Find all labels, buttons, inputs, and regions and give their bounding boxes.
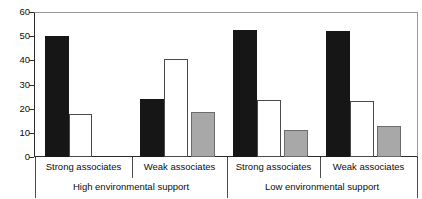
bar-white-weak-low bbox=[350, 101, 374, 157]
bar-group-weak-low bbox=[326, 12, 421, 157]
y-tick-label-10: 10 bbox=[8, 128, 30, 138]
y-tick-label-20: 20 bbox=[8, 104, 30, 114]
bar-gray-weak-low bbox=[377, 126, 401, 157]
y-tick-label-0: 0 bbox=[8, 152, 30, 162]
category-label-weak-high: Weak associates bbox=[132, 161, 227, 173]
bar-white-strong-high bbox=[69, 114, 92, 158]
panel-label-high-support: High environmental support bbox=[35, 181, 227, 193]
category-separator-right bbox=[417, 158, 418, 198]
category-label-strong-high: Strong associates bbox=[35, 161, 132, 173]
bar-white-strong-low bbox=[257, 100, 281, 157]
bar-group-strong-high bbox=[45, 12, 115, 157]
category-label-weak-low: Weak associates bbox=[320, 161, 417, 173]
bar-chart: 60 50 40 30 20 10 0 bbox=[0, 0, 422, 199]
plot-area bbox=[35, 12, 418, 157]
bar-black-weak-high bbox=[140, 99, 164, 157]
y-tick-label-50: 50 bbox=[8, 31, 30, 41]
y-tick-label-60: 60 bbox=[8, 7, 30, 17]
bar-gray-strong-low bbox=[284, 130, 308, 157]
y-tick-label-30: 30 bbox=[8, 80, 30, 90]
bar-group-weak-high bbox=[140, 12, 235, 157]
bar-black-weak-low bbox=[326, 31, 350, 157]
y-tick-label-40: 40 bbox=[8, 56, 30, 66]
y-tick-mark-0 bbox=[29, 157, 34, 158]
bar-white-weak-high bbox=[164, 59, 188, 157]
category-label-strong-low: Strong associates bbox=[227, 161, 320, 173]
bar-gray-weak-high bbox=[191, 112, 215, 157]
bar-black-strong-high bbox=[45, 36, 69, 157]
y-axis-tick-labels: 60 50 40 30 20 10 0 bbox=[8, 0, 30, 199]
bar-black-strong-low bbox=[233, 30, 257, 157]
panel-label-low-support: Low environmental support bbox=[227, 181, 417, 193]
bar-group-strong-low bbox=[233, 12, 328, 157]
